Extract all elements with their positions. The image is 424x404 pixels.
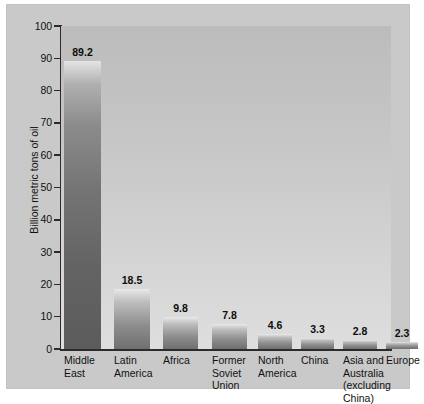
bar bbox=[386, 342, 418, 349]
bar bbox=[258, 334, 292, 349]
category-label-line: (excluding bbox=[343, 379, 413, 392]
bar-value-label: 2.3 bbox=[378, 327, 424, 339]
category-label-line: Europe bbox=[386, 354, 424, 367]
y-tick-label: 90 bbox=[24, 52, 52, 64]
y-tick-label: 70 bbox=[24, 116, 52, 128]
y-tick-label: 0 bbox=[24, 343, 52, 355]
y-tick-label: 80 bbox=[24, 84, 52, 96]
y-tick-label: 100 bbox=[24, 20, 52, 32]
bar bbox=[343, 340, 377, 349]
y-tick-label: 10 bbox=[24, 310, 52, 322]
bar bbox=[114, 289, 150, 349]
y-tick-label: 30 bbox=[24, 246, 52, 258]
category-label-line: America bbox=[114, 367, 184, 380]
x-axis-line bbox=[60, 349, 392, 351]
y-tick-mark bbox=[54, 316, 60, 318]
y-tick-mark bbox=[54, 25, 60, 27]
bar-value-label: 7.8 bbox=[204, 309, 255, 321]
y-tick-label: 20 bbox=[24, 278, 52, 290]
y-tick-mark bbox=[54, 251, 60, 253]
bar bbox=[212, 324, 247, 349]
category-label-line: Union bbox=[212, 379, 282, 392]
y-tick-label: 40 bbox=[24, 213, 52, 225]
y-tick-mark bbox=[54, 348, 60, 350]
y-tick-label: 60 bbox=[24, 149, 52, 161]
y-tick-label: 50 bbox=[24, 181, 52, 193]
category-label-line: Australia bbox=[343, 367, 413, 380]
category-label-line: America bbox=[258, 367, 328, 380]
bar-value-label: 18.5 bbox=[106, 274, 158, 286]
plot-area bbox=[61, 26, 391, 349]
category-label-line: China) bbox=[343, 392, 413, 404]
bar-value-label: 89.2 bbox=[56, 46, 109, 58]
y-tick-mark bbox=[54, 219, 60, 221]
bar bbox=[64, 61, 101, 349]
y-tick-mark bbox=[54, 90, 60, 92]
bar bbox=[163, 317, 198, 349]
bar-value-label: 9.8 bbox=[155, 302, 206, 314]
chart-panel: Billion metric tons of oil 0102030405060… bbox=[6, 4, 410, 389]
bar bbox=[301, 338, 334, 349]
y-tick-mark bbox=[54, 122, 60, 124]
category-label: Europe bbox=[386, 354, 424, 367]
y-tick-mark bbox=[54, 187, 60, 189]
y-tick-mark bbox=[54, 154, 60, 156]
y-tick-mark bbox=[54, 284, 60, 286]
